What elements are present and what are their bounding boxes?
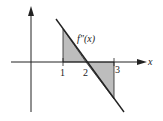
x-axis-arrow-icon (137, 59, 147, 65)
x-axis-label: x (147, 56, 153, 67)
tick-label-3: 3 (115, 64, 120, 75)
y-axis-arrow-icon (28, 6, 34, 16)
tick-label-1: 1 (60, 67, 65, 78)
tick-label-2: 2 (83, 67, 88, 78)
function-label: f″(x) (77, 33, 96, 45)
second-derivative-diagram: f″(x) x 1 2 3 (0, 0, 163, 121)
